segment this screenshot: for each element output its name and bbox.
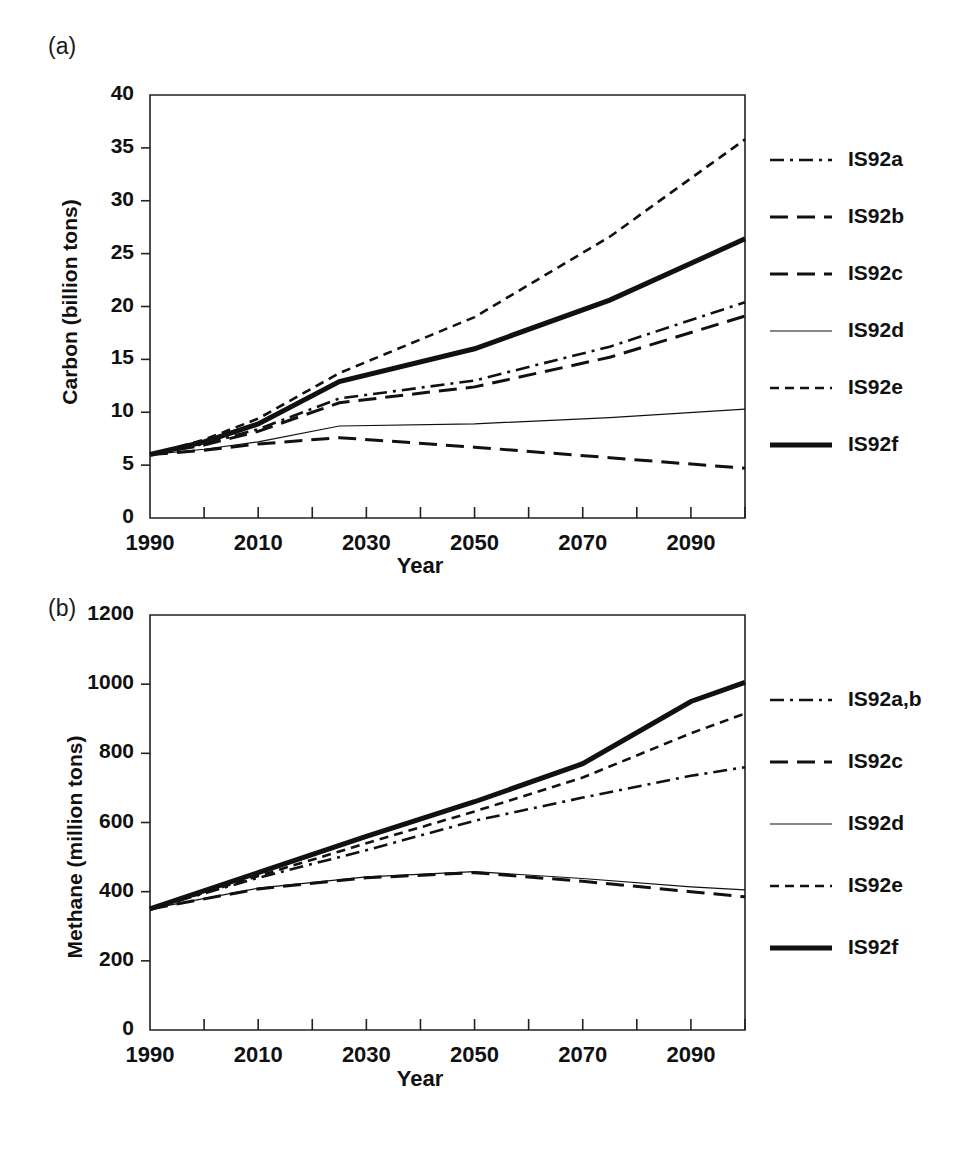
legend-key-is92e [770,876,832,896]
legend-label: IS92b [848,204,904,228]
y-tick-label: 30 [40,187,134,211]
series-line-is92e [150,139,745,454]
y-tick-label: 600 [40,809,134,833]
legend-label: IS92c [848,261,903,285]
x-tick-label: 2090 [636,1042,746,1068]
x-tick-label: 1990 [95,1042,205,1068]
legend-key-is92d [770,321,832,341]
y-tick-label: 25 [40,240,134,264]
legend-key-is92a [770,150,832,170]
panel-b: (b) Methane (million tons) Year IS92a,bI… [0,580,969,1160]
x-tick-label: 2050 [420,1042,530,1068]
x-tick-label: 2010 [203,530,313,556]
legend-label: IS92f [848,935,898,959]
plot-frame [150,615,745,1030]
legend-key-is92d [770,814,832,834]
y-tick-label: 200 [40,947,134,971]
legend-label: IS92c [848,749,903,773]
y-tick-label: 5 [40,451,134,475]
x-tick-label: 2050 [420,530,530,556]
y-tick-label: 1200 [40,601,134,625]
panel-b-plot-area [0,580,969,1160]
y-tick-label: 40 [40,81,134,105]
y-tick-label: 0 [40,504,134,528]
legend-label: IS92e [848,873,903,897]
y-tick-label: 400 [40,878,134,902]
x-tick-label: 2030 [311,1042,421,1068]
y-tick-label: 35 [40,134,134,158]
legend-label: IS92d [848,811,904,835]
x-tick-label: 2090 [636,530,746,556]
y-tick-label: 15 [40,345,134,369]
x-tick-label: 1990 [95,530,205,556]
y-tick-label: 20 [40,293,134,317]
legend-key-is92f [770,938,832,958]
y-tick-label: 0 [40,1016,134,1040]
panel-a-plot-area [0,0,969,590]
legend-key-is92e [770,378,832,398]
legend-key-is92ab [770,690,832,710]
series-line-is92f [150,239,745,455]
legend-label: IS92a,b [848,687,922,711]
legend-label: IS92d [848,318,904,342]
series-line-is92c [150,438,745,469]
x-tick-label: 2070 [528,1042,638,1068]
series-line-is92ab [150,767,745,909]
legend-label: IS92f [848,432,898,456]
legend-key-is92b [770,207,832,227]
panel-a: (a) Carbon (billion tons) Year IS92aIS92… [0,0,969,590]
legend-label: IS92a [848,147,903,171]
legend-key-is92c [770,752,832,772]
x-tick-label: 2030 [311,530,421,556]
legend-key-is92f [770,435,832,455]
y-tick-label: 10 [40,398,134,422]
x-tick-label: 2070 [528,530,638,556]
x-tick-label: 2010 [203,1042,313,1068]
plot-frame [150,95,745,518]
legend-key-is92c [770,264,832,284]
y-tick-label: 800 [40,739,134,763]
legend-label: IS92e [848,375,903,399]
y-tick-label: 1000 [40,670,134,694]
